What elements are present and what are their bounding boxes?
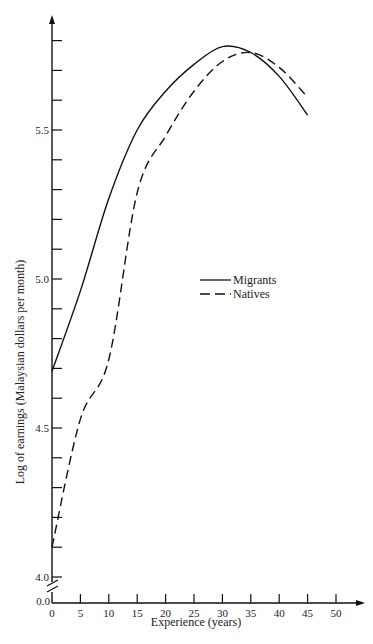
- origin-label: 0.0: [36, 595, 50, 607]
- x-tick-label: 5: [78, 607, 84, 619]
- x-tick-label: 10: [103, 607, 115, 619]
- legend: MigrantsNatives: [200, 273, 277, 301]
- y-tick-label: 5.5: [35, 124, 49, 136]
- x-tick-label: 0: [49, 607, 55, 619]
- x-axis-title: Experience (years): [151, 615, 241, 629]
- axis-break-icon: [47, 586, 58, 592]
- series-line-migrants: [52, 46, 308, 371]
- y-tick-label: 4.0: [35, 571, 49, 583]
- x-tick-label: 40: [274, 607, 286, 619]
- x-axis-arrow-icon: [356, 600, 365, 606]
- x-tick-label: 15: [132, 607, 144, 619]
- x-tick-label: 45: [302, 607, 314, 619]
- y-tick-label: 5.0: [35, 273, 49, 285]
- x-tick-label: 50: [331, 607, 343, 619]
- legend-label-natives: Natives: [233, 287, 270, 301]
- earnings-experience-chart: 4.04.55.05.50.0 05101520253035404550 Mig…: [0, 0, 373, 644]
- x-tick-label: 35: [245, 607, 257, 619]
- y-axis-title: Log of earnings (Malaysian dollars per m…: [13, 260, 27, 485]
- y-axis-arrow-icon: [49, 15, 55, 24]
- y-tick-label: 4.5: [35, 422, 49, 434]
- legend-label-migrants: Migrants: [233, 273, 277, 287]
